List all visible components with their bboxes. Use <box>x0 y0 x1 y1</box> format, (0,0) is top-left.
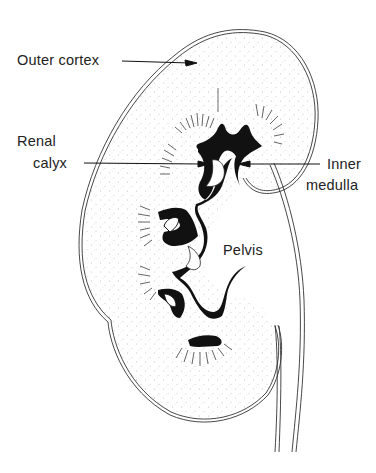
label-renal-calyx-line1: Renal <box>17 133 56 150</box>
label-inner-medulla-line1: Inner <box>327 156 361 173</box>
kidney-diagram <box>0 0 376 473</box>
ureter <box>270 163 304 452</box>
label-pelvis: Pelvis <box>223 242 263 259</box>
label-outer-cortex: Outer cortex <box>17 52 99 69</box>
label-renal-calyx-line2: calyx <box>33 155 67 172</box>
label-inner-medulla-line2: medulla <box>306 177 358 194</box>
cortex-stipple <box>82 33 315 420</box>
